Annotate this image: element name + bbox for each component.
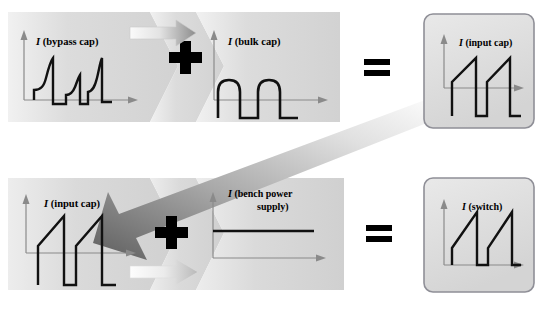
label-bench-power-supply-text: (bench power — [232, 188, 293, 200]
label-bulk-cap: I (bulk cap) — [227, 36, 281, 48]
label-input-cap-result: I (input cap) — [458, 37, 512, 49]
label-bench-power-supply-line1: I (bench power — [227, 188, 293, 200]
label-input-cap: I (input cap) — [43, 198, 101, 210]
figure-canvas: I (bypass cap) I (bulk cap) — [0, 0, 544, 310]
label-bulk-cap-text: (bulk cap) — [232, 36, 281, 48]
result-box-bottom — [424, 178, 534, 292]
label-switch-result-text: (switch) — [466, 201, 502, 213]
label-bypass-cap: I (bypass cap) — [35, 36, 99, 48]
panel-input-cap-result: I (input cap) — [424, 14, 534, 128]
label-input-cap-text: (input cap) — [48, 198, 100, 210]
label-bench-power-supply-line2: supply) — [257, 201, 289, 213]
label-bypass-cap-text: (bypass cap) — [40, 36, 99, 48]
label-input-cap-result-text: (input cap) — [463, 37, 512, 49]
panel-switch-result: I (switch) — [424, 178, 534, 292]
label-switch-result: I (switch) — [461, 201, 502, 213]
result-box-top — [424, 14, 534, 128]
